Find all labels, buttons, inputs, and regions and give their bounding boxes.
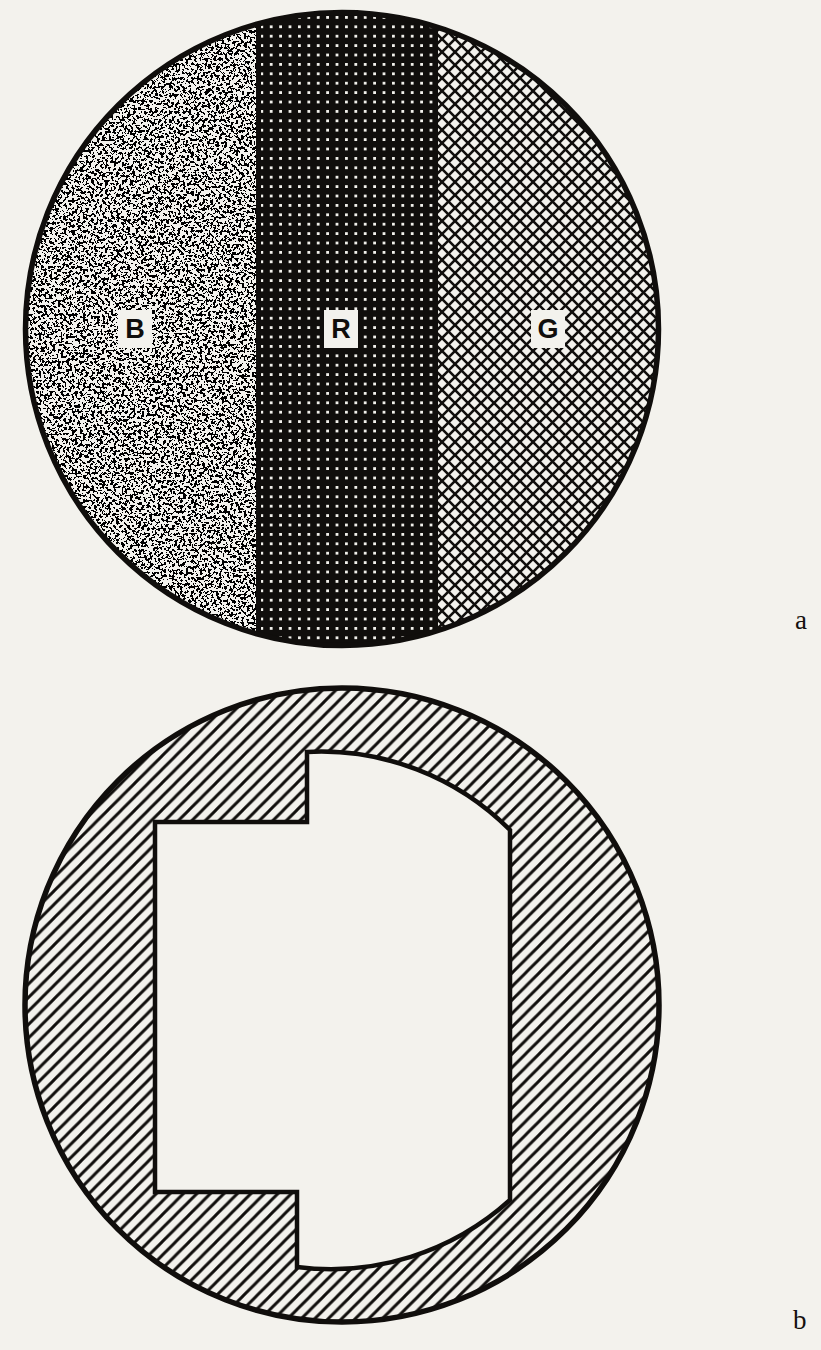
panel-caption-a: a xyxy=(795,607,807,634)
figure-page: B R G a b xyxy=(0,0,821,1350)
panel-b xyxy=(0,640,821,1350)
panel-caption-b: b xyxy=(793,1307,807,1334)
panel-b-hatch-fill xyxy=(0,640,821,1350)
zone-label-g: G xyxy=(531,310,565,348)
figure-canvas xyxy=(0,0,821,1350)
zone-label-b: B xyxy=(118,310,152,348)
zone-label-r: R xyxy=(324,310,358,348)
